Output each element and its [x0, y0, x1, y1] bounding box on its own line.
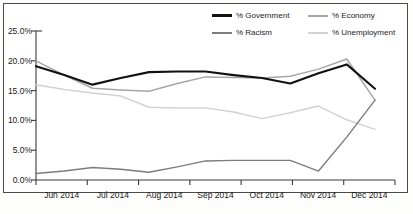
x-tick-label: Nov 2014: [300, 190, 337, 200]
x-tick-label: Jul 2014: [97, 190, 129, 200]
series-line-unemployment: [36, 85, 375, 130]
x-tick-label: Dec 2014: [351, 190, 388, 200]
chart-plot-area: 0.0%5.0%10.0%15.0%20.0%25.0% Jun 2014Jul…: [0, 0, 413, 214]
y-axis-tick-labels: 0.0%5.0%10.0%15.0%20.0%25.0%: [8, 26, 33, 185]
y-tick-label: 5.0%: [13, 145, 33, 155]
y-tick-label: 15.0%: [8, 86, 33, 96]
series-line-economy: [36, 59, 375, 100]
chart-figure: % Government % Economy % Racism % Unempl…: [0, 0, 413, 214]
x-axis-tick-labels: Jun 2014Jul 2014Aug 2014Sep 2014Oct 2014…: [44, 190, 388, 200]
x-tick-label: Aug 2014: [146, 190, 183, 200]
y-tick-label: 0.0%: [13, 175, 33, 185]
chart-svg: 0.0%5.0%10.0%15.0%20.0%25.0% Jun 2014Jul…: [0, 0, 413, 214]
x-tick-label: Oct 2014: [250, 190, 285, 200]
x-tick-label: Jun 2014: [44, 190, 79, 200]
y-tick-label: 10.0%: [8, 115, 33, 125]
axis-lines: [31, 31, 395, 185]
x-tick-label: Sep 2014: [197, 190, 234, 200]
y-tick-label: 20.0%: [8, 56, 33, 66]
data-series-group: [36, 59, 375, 173]
y-tick-label: 25.0%: [8, 26, 33, 36]
series-line-racism: [36, 100, 375, 173]
